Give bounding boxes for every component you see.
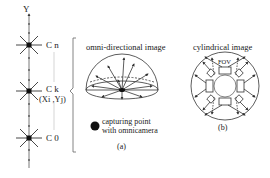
legend-line-2: with omnicamera [102,126,158,136]
panel-b-title: cylindrical image [193,42,252,52]
panel-b-caption: (b) [218,123,227,133]
panel-a-caption: (a) [117,142,126,152]
fov-label: FOV [218,57,231,67]
hemisphere-diagram [86,54,158,99]
node-label-cn: C n [46,40,59,50]
node-label-ck: C k [46,84,59,94]
y-axis-label: Y [23,4,30,14]
diagram-canvas [0,0,270,178]
capturing-point-dot [91,122,100,131]
panel-a-title: omni-directional image [86,42,166,52]
node-label-c0: C 0 [46,133,59,143]
node-coords-ck: (Xi ,Yj) [39,94,66,104]
curly-brace [70,38,76,152]
